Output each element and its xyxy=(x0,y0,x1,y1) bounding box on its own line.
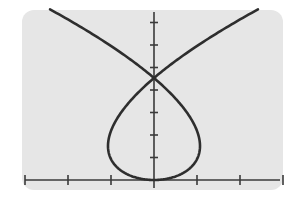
graph-canvas xyxy=(0,0,294,198)
plot-panel xyxy=(22,10,283,190)
